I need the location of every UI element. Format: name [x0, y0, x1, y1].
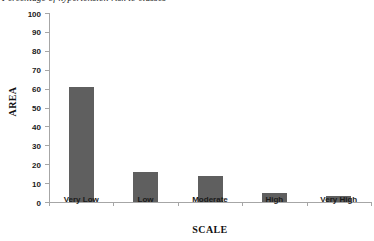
y-axis-line	[49, 13, 50, 202]
x-axis-title: SCALE	[49, 224, 371, 235]
x-axis-category-label: Low	[113, 195, 177, 204]
x-axis-category-label: Very High	[307, 195, 371, 204]
y-axis-tick: 20	[45, 164, 49, 165]
y-axis-tick-label: 50	[32, 104, 41, 113]
y-axis-tick-label: 0	[37, 198, 41, 207]
y-axis-tick-label: 30	[32, 141, 41, 150]
y-axis-tick: 10	[45, 183, 49, 184]
x-axis-category-label: Moderate	[178, 195, 242, 204]
bar-chart-figure: Percentage of hypertension risk to class…	[0, 0, 374, 241]
y-axis-tick-label: 10	[32, 179, 41, 188]
plot-area: 0102030405060708090100	[49, 13, 371, 202]
y-axis-tick: 80	[45, 51, 49, 52]
y-axis-title: AREA	[7, 72, 18, 132]
x-axis-category-label: Very Low	[49, 195, 113, 204]
y-axis-tick: 60	[45, 89, 49, 90]
x-axis-tick	[371, 202, 372, 206]
figure-caption-clipped: Percentage of hypertension risk to class…	[0, 0, 374, 6]
bar	[69, 87, 94, 202]
y-axis-tick-label: 20	[32, 160, 41, 169]
y-axis-tick-label: 100	[28, 9, 41, 18]
x-axis-category-label: High	[242, 195, 306, 204]
y-axis-tick: 90	[45, 32, 49, 33]
y-axis-tick: 30	[45, 145, 49, 146]
y-axis-tick-label: 70	[32, 66, 41, 75]
y-axis-tick: 50	[45, 108, 49, 109]
y-axis-tick: 40	[45, 126, 49, 127]
figure-caption-text: Percentage of hypertension risk to class…	[2, 0, 166, 3]
y-axis-tick-label: 80	[32, 47, 41, 56]
y-axis-tick-label: 40	[32, 122, 41, 131]
y-axis-tick: 100	[45, 13, 49, 14]
y-axis-tick-label: 60	[32, 85, 41, 94]
y-axis-tick-label: 90	[32, 28, 41, 37]
y-axis-tick: 70	[45, 70, 49, 71]
